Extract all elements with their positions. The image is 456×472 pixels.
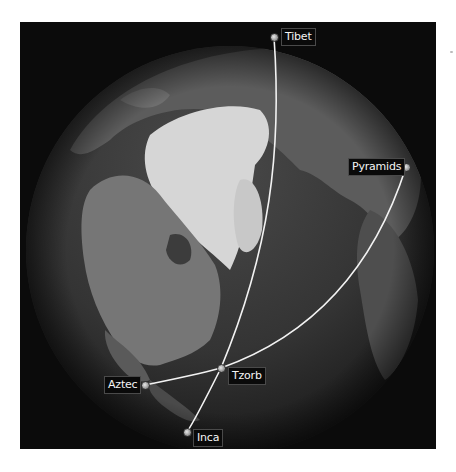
marker-tzorb-icon[interactable]: [217, 364, 226, 373]
label-pyramids[interactable]: Pyramids: [348, 158, 405, 176]
marker-aztec-icon[interactable]: [141, 381, 150, 390]
stray-mark: [450, 51, 453, 53]
label-aztec[interactable]: Aztec: [104, 376, 141, 394]
label-tzorb[interactable]: Tzorb: [228, 367, 266, 385]
globe-limb-shading: [26, 46, 434, 449]
marker-tibet-icon[interactable]: [270, 33, 279, 42]
label-tibet[interactable]: Tibet: [281, 28, 316, 46]
marker-inca-icon[interactable]: [183, 428, 192, 437]
label-inca[interactable]: Inca: [193, 429, 223, 447]
